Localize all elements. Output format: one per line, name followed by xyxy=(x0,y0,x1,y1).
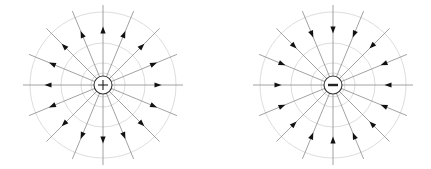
arrow-head-icon xyxy=(120,132,125,139)
positive-charge-field xyxy=(23,5,183,165)
arrow-head-icon xyxy=(385,82,392,87)
arrow-head-icon xyxy=(381,105,388,110)
arrow-head-icon xyxy=(150,63,157,68)
arrow-head-icon xyxy=(45,82,52,87)
field-line xyxy=(339,28,389,78)
field-line xyxy=(276,28,326,78)
arrow-head-icon xyxy=(81,132,86,139)
negative-charge-field xyxy=(253,5,413,165)
arrow-head-icon xyxy=(308,30,313,37)
field-line xyxy=(46,91,96,141)
arrow-head-icon xyxy=(100,27,105,34)
arrow-head-icon xyxy=(353,133,358,140)
arrow-head-icon xyxy=(330,137,335,144)
arrow-head-icon xyxy=(353,30,358,37)
arrow-head-icon xyxy=(381,60,388,65)
arrow-head-icon xyxy=(120,31,125,38)
arrow-head-icon xyxy=(278,60,285,65)
field-line xyxy=(46,28,96,78)
field-diagram xyxy=(0,0,431,169)
arrow-head-icon xyxy=(155,82,162,87)
arrow-head-icon xyxy=(278,105,285,110)
field-line xyxy=(339,91,389,141)
arrow-head-icon xyxy=(150,102,157,107)
arrow-head-icon xyxy=(275,82,282,87)
field-lines-canvas xyxy=(0,0,431,169)
arrow-head-icon xyxy=(49,63,56,68)
field-line xyxy=(109,91,159,141)
arrow-head-icon xyxy=(308,133,313,140)
arrow-head-icon xyxy=(330,27,335,34)
field-line xyxy=(109,28,159,78)
field-line xyxy=(276,91,326,141)
arrow-head-icon xyxy=(100,137,105,144)
arrow-head-icon xyxy=(81,31,86,38)
arrow-head-icon xyxy=(49,102,56,107)
